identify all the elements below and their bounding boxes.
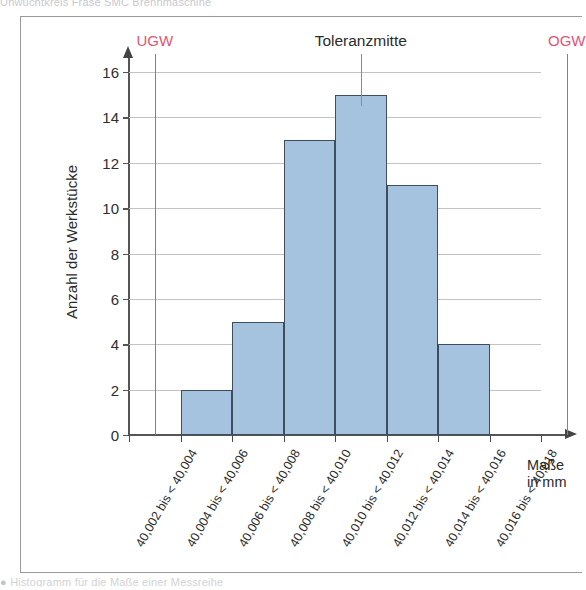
x-axis-tick [232, 435, 233, 442]
clipped-bottom-caption: ● Histogramm für die Maße einer Messreih… [0, 578, 575, 587]
y-axis-tick [123, 390, 129, 391]
histogram-bar [335, 95, 387, 435]
figure-frame: Anzahl der Werkstücke 024681012141640,00… [20, 16, 582, 573]
x-axis-tick [335, 435, 336, 442]
clipped-top-caption-text: Unwuchtkreis Fräse SMC Brennmaschine [0, 0, 211, 7]
y-axis-tick-label: 12 [102, 154, 119, 171]
histogram-bar [438, 344, 490, 435]
plot-area: 024681012141640,002 bis < 40,00440,004 b… [129, 72, 541, 435]
limit-line-ogw [567, 54, 568, 435]
histogram-bar [181, 390, 233, 435]
bullet-icon: ● [0, 578, 7, 587]
y-axis-arrow-icon [123, 46, 133, 58]
limit-label-ogw: OGW [548, 32, 586, 49]
histogram-bar [284, 140, 336, 435]
y-axis-tick-label: 2 [111, 381, 119, 398]
y-axis-tick [123, 299, 129, 300]
x-axis-tick [387, 435, 388, 442]
clipped-top-caption: Unwuchtkreis Fräse SMC Brennmaschine [0, 0, 575, 7]
histogram-bar [387, 185, 439, 435]
y-axis-tick [123, 72, 129, 73]
x-axis-tick [490, 435, 491, 442]
tolerance-center-label: Toleranzmitte [315, 32, 407, 50]
y-axis-tick [123, 208, 129, 209]
x-axis-title-line1: Maße [527, 457, 566, 474]
y-axis-tick [123, 117, 129, 118]
y-axis-tick-label: 16 [102, 64, 119, 81]
limit-line-ugw [155, 54, 156, 435]
y-axis-tick-label: 14 [102, 109, 119, 126]
y-axis-tick-label: 0 [111, 427, 119, 444]
y-axis-title: Anzahl der Werkstücke [63, 165, 80, 319]
x-axis-tick [181, 435, 182, 442]
y-axis-tick-label: 6 [111, 290, 119, 307]
x-axis-tick [438, 435, 439, 442]
y-axis-tick [123, 254, 129, 255]
y-axis-tick-label: 8 [111, 245, 119, 262]
y-axis-tick [123, 344, 129, 345]
x-axis-title: Maße in mm [527, 457, 566, 491]
x-axis-tick [284, 435, 285, 442]
x-axis-tick [129, 435, 130, 442]
clipped-bottom-caption-text: Histogramm für die Maße einer Messreihe [10, 578, 223, 587]
x-axis-title-line2: in mm [527, 474, 566, 491]
tolerance-center-line [361, 54, 362, 106]
limit-label-ugw: UGW [136, 32, 173, 49]
x-axis-tick [541, 435, 542, 442]
histogram-bar [232, 322, 284, 435]
y-axis-tick [123, 163, 129, 164]
y-axis-tick-label: 4 [111, 336, 119, 353]
histogram-plot: Anzahl der Werkstücke 024681012141640,00… [97, 57, 557, 439]
gridline [129, 72, 541, 73]
y-axis-tick-label: 10 [102, 200, 119, 217]
